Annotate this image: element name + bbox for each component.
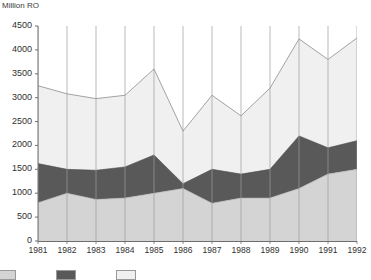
y-axis-tick-label: 2500 bbox=[0, 116, 32, 126]
y-axis-tick-label: 500 bbox=[0, 211, 32, 221]
y-axis-tick-label: 2000 bbox=[0, 139, 32, 149]
x-axis-tick-label: 1990 bbox=[284, 245, 314, 255]
y-axis-tick-label: 0 bbox=[0, 235, 32, 245]
legend-swatch-bottom bbox=[0, 270, 16, 280]
legend-swatch-top bbox=[116, 270, 136, 280]
legend-swatch-middle bbox=[56, 270, 76, 280]
x-axis-tick-label: 1991 bbox=[313, 245, 343, 255]
plot-area bbox=[38, 26, 357, 241]
x-axis-tick-label: 1983 bbox=[81, 245, 111, 255]
y-axis-tick-label: 1500 bbox=[0, 163, 32, 173]
y-axis-tick-label: 3500 bbox=[0, 68, 32, 78]
y-axis-tick-label: 1000 bbox=[0, 187, 32, 197]
x-axis-tick-label: 1981 bbox=[23, 245, 53, 255]
x-axis-tick-label: 1989 bbox=[255, 245, 285, 255]
chart-legend bbox=[0, 270, 363, 278]
x-axis-tick-label: 1987 bbox=[197, 245, 227, 255]
x-axis-tick-label: 1992 bbox=[342, 245, 371, 255]
x-axis-tick-label: 1985 bbox=[139, 245, 169, 255]
y-axis-tick-label: 4500 bbox=[0, 20, 32, 30]
y-axis-tick-label: 3000 bbox=[0, 92, 32, 102]
x-axis-tick-label: 1984 bbox=[110, 245, 140, 255]
y-axis-title: Million RO bbox=[2, 1, 39, 10]
stacked-area-plot bbox=[38, 26, 357, 241]
x-axis-tick-label: 1982 bbox=[52, 245, 82, 255]
x-axis-tick-marks bbox=[38, 241, 357, 244]
y-axis-tick-label: 4000 bbox=[0, 44, 32, 54]
x-axis-tick-label: 1988 bbox=[226, 245, 256, 255]
x-axis-tick-label: 1986 bbox=[168, 245, 198, 255]
